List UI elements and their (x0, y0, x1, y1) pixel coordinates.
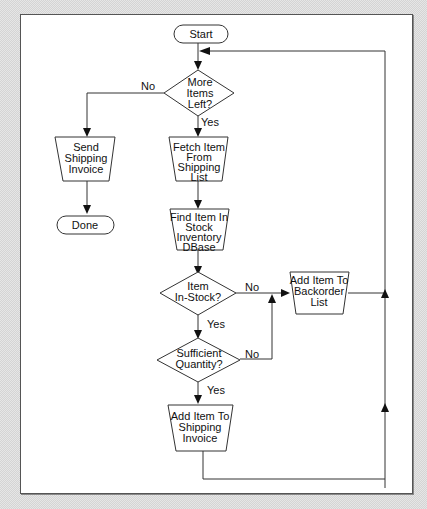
arrow-down-icon (194, 395, 202, 404)
node-label-line: List (190, 171, 207, 183)
done-node[interactable]: Done (57, 216, 114, 234)
add-to-invoice-node[interactable]: Add Item To Shipping Invoice (168, 405, 233, 451)
node-label-line: List (310, 296, 327, 308)
arrow-up-icon (381, 403, 389, 412)
start-label: Start (189, 28, 212, 40)
edge-label-yes: Yes (201, 116, 219, 128)
edge-label-no: No (245, 348, 259, 360)
arrow-down-icon (83, 205, 91, 214)
more-items-decision[interactable]: More Items Left? (164, 70, 234, 116)
edge-label-yes: Yes (207, 384, 225, 396)
start-node[interactable]: Start (174, 25, 228, 43)
node-label-line: Invoice (69, 163, 104, 175)
arrow-left-icon (199, 47, 210, 55)
edge-label-no: No (245, 281, 259, 293)
add-backorder-node[interactable]: Add Item To Backorder List (290, 272, 349, 314)
arrow-down-icon (194, 128, 202, 137)
decision-label-line: Quantity? (175, 358, 222, 370)
done-label: Done (72, 219, 98, 231)
arrow-right-icon (281, 289, 290, 297)
node-label-line: Invoice (183, 432, 218, 444)
decision-label-line: Left? (188, 98, 212, 110)
arrow-down-icon (194, 200, 202, 209)
connectors (83, 43, 389, 488)
arrow-down-icon (194, 61, 202, 70)
in-stock-decision[interactable]: Item In-Stock? (160, 272, 236, 315)
decision-label-line: In-Stock? (175, 291, 221, 303)
send-invoice-node[interactable]: Send Shipping Invoice (55, 137, 115, 181)
edge-label-no: No (141, 80, 155, 92)
edge-label-yes: Yes (207, 318, 225, 330)
arrow-up-icon (268, 294, 276, 303)
sufficient-quantity-decision[interactable]: Sufficient Quantity? (157, 338, 240, 382)
find-item-node[interactable]: Find Item In Stock Inventory DBase (170, 209, 229, 253)
flowchart-canvas: Start More Items Left? No Yes Send Shipp… (0, 0, 427, 509)
node-label-line: DBase (182, 241, 215, 253)
arrow-down-icon (83, 128, 91, 137)
fetch-item-node[interactable]: Fetch Item From Shipping List (169, 137, 228, 183)
